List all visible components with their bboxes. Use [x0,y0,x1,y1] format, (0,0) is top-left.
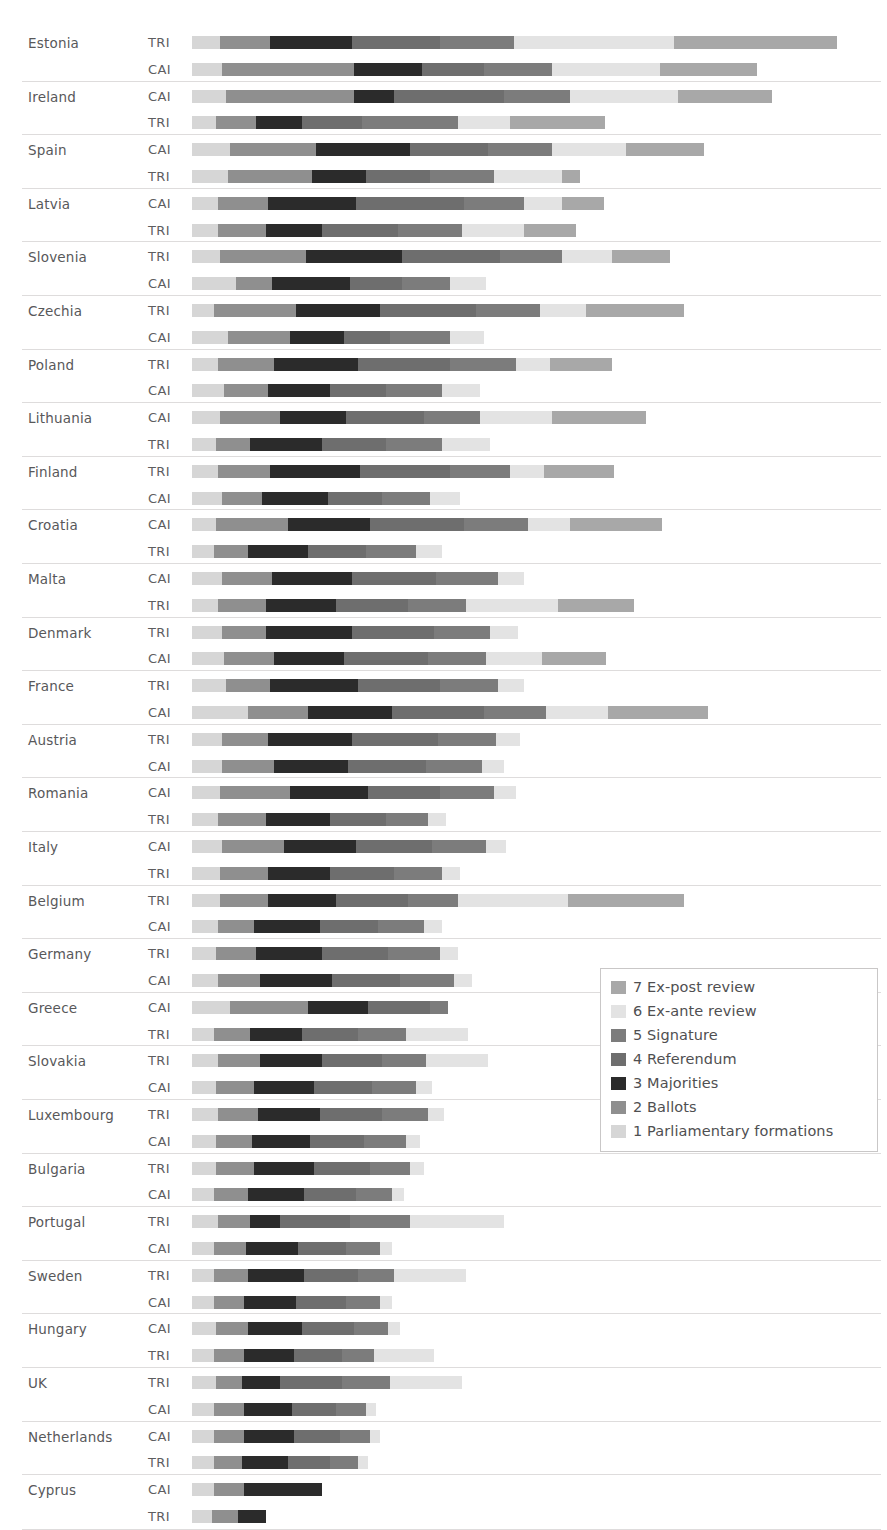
legend-swatch-icon [611,1101,626,1114]
bar-segment-4 [292,1403,336,1416]
bar-segment-1 [192,36,220,49]
chart-row: PolandTRI [0,352,887,378]
bar-segment-7 [544,465,614,478]
bar-segment-3 [254,1162,314,1175]
bar-segment-1 [192,197,218,210]
measure-label: TRI [148,1504,188,1530]
bar-segment-1 [192,1322,216,1335]
bar-segment-1 [192,224,218,237]
bar-segment-6 [392,1188,404,1201]
bar-segment-4 [322,224,398,237]
bar-segment-3 [268,894,336,907]
measure-label: TRI [148,298,188,324]
bar-segment-5 [408,894,458,907]
bar-segment-6 [490,626,518,639]
stacked-bar [192,304,684,317]
chart-row: CAI [0,1290,887,1316]
bar-segment-7 [626,143,704,156]
bar-segment-4 [392,706,484,719]
chart-row: PortugalTRI [0,1209,887,1235]
chart-row: CAI [0,914,887,940]
bar-segment-6 [496,733,520,746]
bar-segment-6 [486,840,506,853]
bar-segment-3 [244,1403,292,1416]
measure-label: CAI [148,914,188,940]
bar-segment-5 [430,170,494,183]
bar-segment-2 [222,572,272,585]
bar-segment-1 [192,465,218,478]
measure-label: CAI [148,1236,188,1262]
country-label: Malta [28,566,148,592]
legend-label: 1 Parliamentary formations [633,1123,833,1139]
measure-label: CAI [148,1477,188,1503]
group-separator [22,1153,881,1154]
measure-label: CAI [148,754,188,780]
country-label: France [28,673,148,699]
stacked-bar [192,760,504,773]
measure-label: CAI [148,84,188,110]
bar-segment-1 [192,706,248,719]
bar-segment-2 [222,626,266,639]
bar-segment-2 [216,116,256,129]
stacked-bar [192,1135,420,1148]
chart-row: SpainCAI [0,137,887,163]
bar-segment-4 [304,1188,356,1201]
bar-segment-5 [386,438,442,451]
bar-segment-5 [358,1269,394,1282]
bar-segment-6 [430,492,460,505]
bar-segment-6 [442,438,490,451]
bar-segment-7 [562,170,580,183]
bar-segment-1 [192,1403,214,1416]
bar-segment-6 [540,304,586,317]
bar-segment-3 [268,733,352,746]
bar-segment-6 [358,1456,368,1469]
measure-label: TRI [148,727,188,753]
measure-label: CAI [148,968,188,994]
bar-segment-6 [370,1430,380,1443]
group-separator [22,670,881,671]
bar-segment-1 [192,652,224,665]
stacked-bar [192,1483,322,1496]
bar-segment-5 [408,599,466,612]
bar-segment-3 [296,304,380,317]
bar-segment-3 [308,1001,368,1014]
bar-segment-1 [192,1108,218,1121]
stacked-bar [192,1376,462,1389]
bar-segment-4 [352,733,438,746]
measure-label: CAI [148,1397,188,1423]
bar-segment-2 [218,1108,258,1121]
bar-segment-5 [350,1215,410,1228]
bar-segment-2 [230,143,316,156]
stacked-bar [192,545,442,558]
measure-label: TRI [148,244,188,270]
bar-segment-4 [350,277,402,290]
bar-segment-1 [192,384,224,397]
bar-segment-6 [426,1054,488,1067]
chart-row: CAI [0,1397,887,1423]
measure-label: TRI [148,888,188,914]
bar-segment-1 [192,304,214,317]
bar-segment-4 [280,1215,350,1228]
chart-row: UKTRI [0,1370,887,1396]
bar-segment-4 [368,1001,430,1014]
bar-segment-4 [332,974,400,987]
measure-label: CAI [148,1316,188,1342]
bar-segment-1 [192,572,222,585]
country-label: Portugal [28,1209,148,1235]
bar-segment-7 [550,358,612,371]
legend-label: 4 Referendum [633,1051,737,1067]
bar-segment-6 [410,1215,504,1228]
measure-label: TRI [148,1209,188,1235]
bar-segment-5 [388,947,440,960]
bar-segment-2 [214,1430,244,1443]
country-label: Denmark [28,620,148,646]
bar-segment-2 [216,1081,254,1094]
chart-row: CzechiaTRI [0,298,887,324]
legend-item: 6 Ex-ante review [611,999,869,1023]
bar-segment-1 [192,1054,218,1067]
bar-segment-5 [366,545,416,558]
bar-segment-7 [612,250,670,263]
legend-swatch-icon [611,1077,626,1090]
bar-segment-2 [220,36,270,49]
bar-segment-5 [340,1430,370,1443]
